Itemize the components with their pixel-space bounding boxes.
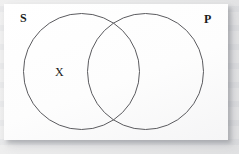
- venn-circle-p: [87, 13, 204, 130]
- venn-label-s: S: [20, 12, 27, 24]
- venn-diagram-figure: S P X: [0, 0, 239, 154]
- venn-label-p: P: [204, 13, 212, 25]
- figure-panel: S P X: [4, 4, 228, 140]
- venn-x-mark: X: [55, 66, 64, 78]
